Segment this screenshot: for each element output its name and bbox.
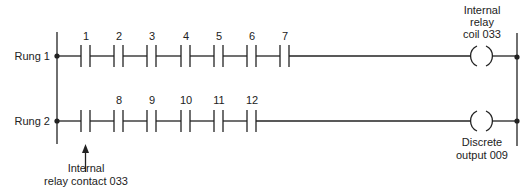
contact-1 bbox=[81, 45, 90, 67]
contact-4 bbox=[181, 45, 190, 67]
contact-label-7: 7 bbox=[282, 30, 288, 42]
contact-label-10: 10 bbox=[180, 94, 192, 106]
contact-label-8: 8 bbox=[116, 94, 122, 106]
svg-text:relay contact 033: relay contact 033 bbox=[44, 175, 128, 187]
internal-relay-contact-caption: Internal Internal relay contact 033 bbox=[44, 162, 128, 187]
contact-6 bbox=[247, 45, 256, 67]
svg-text:Internal: Internal bbox=[464, 4, 501, 16]
coil-discrete-output-009 bbox=[471, 111, 493, 131]
svg-text:relay: relay bbox=[470, 16, 494, 28]
junction-dot-left-rung-1 bbox=[54, 53, 59, 58]
junction-dot-right-rung-2 bbox=[514, 118, 519, 123]
svg-text:coil 033: coil 033 bbox=[463, 28, 501, 40]
contact-internal-relay-033 bbox=[81, 110, 90, 132]
contact-label-11: 11 bbox=[213, 94, 224, 106]
junction-dot-left-rung-2 bbox=[54, 118, 59, 123]
svg-text:Discrete: Discrete bbox=[462, 136, 502, 148]
contact-10 bbox=[181, 110, 190, 132]
contact-2 bbox=[114, 45, 123, 67]
contact-11 bbox=[214, 110, 223, 132]
contact-label-2: 2 bbox=[116, 30, 122, 42]
contact-9 bbox=[147, 110, 156, 132]
coil-internal-relay-033 bbox=[471, 46, 493, 66]
contact-3 bbox=[147, 45, 156, 67]
svg-text:output 009: output 009 bbox=[456, 149, 508, 161]
coil-2-caption: Discrete output 009 bbox=[456, 136, 508, 161]
contact-label-9: 9 bbox=[149, 94, 155, 106]
contact-label-3: 3 bbox=[149, 30, 155, 42]
rung-2-label: Rung 2 bbox=[15, 115, 50, 127]
contact-8 bbox=[114, 110, 123, 132]
annotation-arrowhead-icon bbox=[82, 144, 89, 153]
contact-12 bbox=[247, 110, 256, 132]
contact-label-5: 5 bbox=[216, 30, 222, 42]
contact-7 bbox=[280, 45, 289, 67]
contact-label-4: 4 bbox=[183, 30, 189, 42]
svg-text:Internal: Internal bbox=[68, 162, 105, 174]
contact-label-1: 1 bbox=[83, 30, 89, 42]
contact-label-12: 12 bbox=[246, 94, 258, 106]
coil-1-caption: Internal relay coil 033 bbox=[463, 4, 501, 40]
rung-1-label: Rung 1 bbox=[15, 50, 50, 62]
junction-dot-right-rung-1 bbox=[514, 54, 519, 59]
contact-5 bbox=[214, 45, 223, 67]
ladder-diagram: Rung 1 Rung 2 1 2 3 4 5 6 7 8 9 10 11 12… bbox=[0, 0, 530, 188]
contact-label-6: 6 bbox=[249, 30, 255, 42]
